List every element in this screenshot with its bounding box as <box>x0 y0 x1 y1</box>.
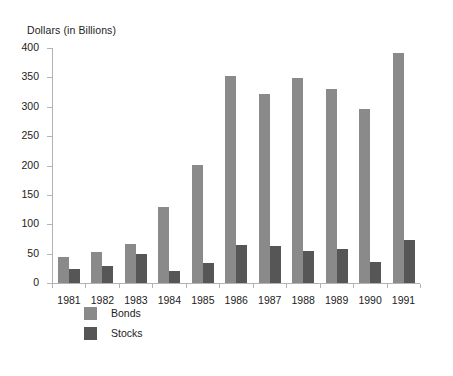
x-axis-label-1986: 1986 <box>225 294 248 306</box>
y-axis-tick-label: 100 <box>21 217 39 229</box>
legend-item-bonds: Bonds <box>84 303 143 323</box>
bar-bonds-1984 <box>158 207 169 283</box>
x-axis-label-1981: 1981 <box>57 294 80 306</box>
x-axis-tick <box>320 284 321 288</box>
bar-stocks-1989 <box>337 249 348 283</box>
x-axis-label-1985: 1985 <box>191 294 214 306</box>
x-axis-label-1989: 1989 <box>325 294 348 306</box>
bar-bonds-1990 <box>359 109 370 283</box>
bar-stocks-1985 <box>203 263 214 283</box>
bar-bonds-1987 <box>259 94 270 283</box>
x-axis-tick <box>52 284 53 288</box>
x-axis-tick <box>152 284 153 288</box>
y-axis-tick: 300 <box>47 107 52 108</box>
bar-stocks-1988 <box>303 251 314 283</box>
y-axis-tick-label: 50 <box>27 247 39 259</box>
legend-swatch-bonds <box>84 307 97 320</box>
y-axis-tick: 400 <box>47 48 52 49</box>
bar-stocks-1981 <box>69 269 80 283</box>
legend-label-stocks: Stocks <box>111 327 143 339</box>
bar-bonds-1983 <box>125 244 136 283</box>
bar-stocks-1982 <box>102 266 113 283</box>
y-axis-tick-label: 200 <box>21 159 39 171</box>
y-axis-tick-label: 350 <box>21 70 39 82</box>
legend-label-bonds: Bonds <box>111 307 141 319</box>
y-axis-tick-label: 150 <box>21 188 39 200</box>
y-axis-tick: 100 <box>47 224 52 225</box>
y-axis-tick: 50 <box>47 254 52 255</box>
y-axis-tick: 350 <box>47 77 52 78</box>
bar-bonds-1981 <box>58 257 69 283</box>
y-axis-tick-label: 0 <box>33 276 39 288</box>
x-axis-tick <box>186 284 187 288</box>
x-axis-tick <box>353 284 354 288</box>
bar-bonds-1988 <box>292 78 303 283</box>
x-axis-label-1987: 1987 <box>258 294 281 306</box>
bar-bonds-1989 <box>326 89 337 283</box>
y-axis-tick: 250 <box>47 136 52 137</box>
x-axis-label-1988: 1988 <box>291 294 314 306</box>
legend-swatch-stocks <box>84 327 97 340</box>
bar-stocks-1984 <box>169 271 180 283</box>
x-axis-tick <box>387 284 388 288</box>
x-axis-label-1990: 1990 <box>358 294 381 306</box>
y-axis-tick-label: 400 <box>21 41 39 53</box>
legend: BondsStocks <box>84 303 143 343</box>
bar-stocks-1987 <box>270 246 281 283</box>
bar-bonds-1985 <box>192 165 203 283</box>
y-axis-tick: 200 <box>47 166 52 167</box>
bar-bonds-1982 <box>91 252 102 283</box>
x-axis-tick <box>420 284 421 288</box>
x-axis-line <box>52 283 420 284</box>
x-axis-tick <box>219 284 220 288</box>
legend-item-stocks: Stocks <box>84 323 143 343</box>
y-axis-tick-label: 250 <box>21 129 39 141</box>
x-axis-label-1991: 1991 <box>392 294 415 306</box>
x-axis-tick <box>253 284 254 288</box>
bar-stocks-1991 <box>404 240 415 283</box>
x-axis-tick <box>286 284 287 288</box>
x-axis-tick <box>85 284 86 288</box>
bar-chart: Dollars (in Billions) 050100150200250300… <box>0 0 453 376</box>
y-axis-line <box>52 48 53 283</box>
bar-stocks-1990 <box>370 262 381 283</box>
x-axis-tick <box>119 284 120 288</box>
bar-stocks-1986 <box>236 245 247 283</box>
bar-stocks-1983 <box>136 254 147 283</box>
y-axis-tick-label: 300 <box>21 100 39 112</box>
y-axis-title: Dollars (in Billions) <box>27 24 116 36</box>
plot-area: 050100150200250300350400 198119821983198… <box>52 48 420 283</box>
y-axis-tick: 150 <box>47 195 52 196</box>
x-axis-label-1984: 1984 <box>158 294 181 306</box>
bar-bonds-1991 <box>393 53 404 283</box>
bar-bonds-1986 <box>225 76 236 283</box>
